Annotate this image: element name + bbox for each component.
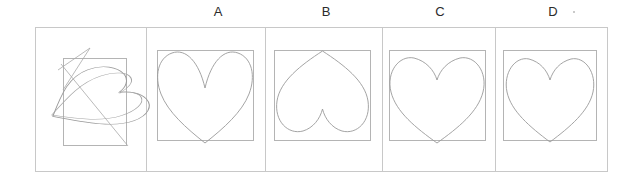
panel-a-heart-outline (158, 52, 253, 143)
query-stray-chord-1 (61, 64, 128, 146)
panel-query (30, 48, 158, 146)
query-stray-chord-3 (63, 48, 90, 90)
panel-b-heart-outline (277, 51, 369, 132)
query-distorted-heart-outline (30, 61, 158, 142)
panel-strip-svg (0, 0, 640, 183)
panel-c (390, 51, 486, 144)
panel-b (275, 51, 371, 141)
panel-c-heart-outline (390, 58, 484, 143)
panel-strip (0, 0, 640, 183)
panel-a (158, 51, 254, 144)
figure-root: A B C D (0, 0, 640, 183)
strip-frame (36, 28, 608, 172)
query-distorted-heart-secondary (41, 68, 146, 135)
panel-d-heart-outline (506, 59, 594, 142)
panel-a-inner-rect (158, 51, 254, 141)
panel-c-inner-rect (390, 51, 486, 141)
panel-b-inner-rect (275, 51, 371, 141)
panel-d-inner-rect (504, 51, 597, 141)
panel-d (504, 51, 597, 143)
